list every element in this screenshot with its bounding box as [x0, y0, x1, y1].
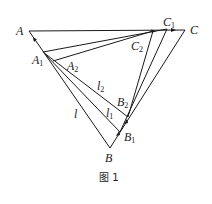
segment-B1C1: [120, 29, 167, 132]
line-l2: [43, 52, 128, 117]
figure-caption: 图 1: [99, 173, 119, 183]
line-label-l1: l1: [106, 107, 113, 121]
point-label-C2: C2: [131, 40, 143, 54]
point-label-B: B: [105, 152, 112, 164]
point-label-C: C: [190, 24, 198, 36]
point-label-B1: B1: [124, 131, 135, 145]
point-label-A2: A2: [67, 60, 78, 74]
point-label-C1: C1: [163, 16, 175, 30]
geometry-figure: A C C1 C2 A1 A2 B2 B1 B l l1 l2 图 1: [0, 0, 212, 204]
point-label-A: A: [16, 25, 23, 37]
point-label-B2: B2: [117, 96, 128, 110]
point-label-A1: A1: [32, 54, 43, 68]
line-label-l2: l2: [97, 80, 104, 94]
line-label-l: l: [74, 108, 77, 120]
